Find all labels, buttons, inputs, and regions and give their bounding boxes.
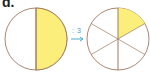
fraction-diagram xyxy=(0,0,150,78)
left-shaded-half xyxy=(36,8,67,70)
divide-by-label: : 3 xyxy=(72,27,81,34)
left-circle xyxy=(5,8,67,70)
right-circle xyxy=(87,8,149,70)
arrow-icon xyxy=(71,37,83,41)
